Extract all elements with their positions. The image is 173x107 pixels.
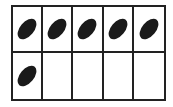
ten-frame bbox=[11, 5, 166, 101]
bean-icon bbox=[76, 16, 98, 42]
ten-frame-cell bbox=[13, 53, 43, 99]
ten-frame-cell bbox=[43, 7, 73, 53]
ten-frame-cell bbox=[73, 53, 103, 99]
ten-frame-cell bbox=[43, 53, 73, 99]
ten-frame-cell bbox=[13, 7, 43, 53]
bean-icon bbox=[107, 16, 129, 42]
ten-frame-cell bbox=[104, 53, 134, 99]
bean-icon bbox=[16, 16, 38, 42]
ten-frame-cell bbox=[73, 7, 103, 53]
bean-icon bbox=[138, 16, 160, 42]
ten-frame-cell bbox=[134, 7, 164, 53]
bean-icon bbox=[46, 16, 68, 42]
bean-icon bbox=[16, 63, 38, 89]
ten-frame-cell bbox=[134, 53, 164, 99]
ten-frame-cell bbox=[104, 7, 134, 53]
